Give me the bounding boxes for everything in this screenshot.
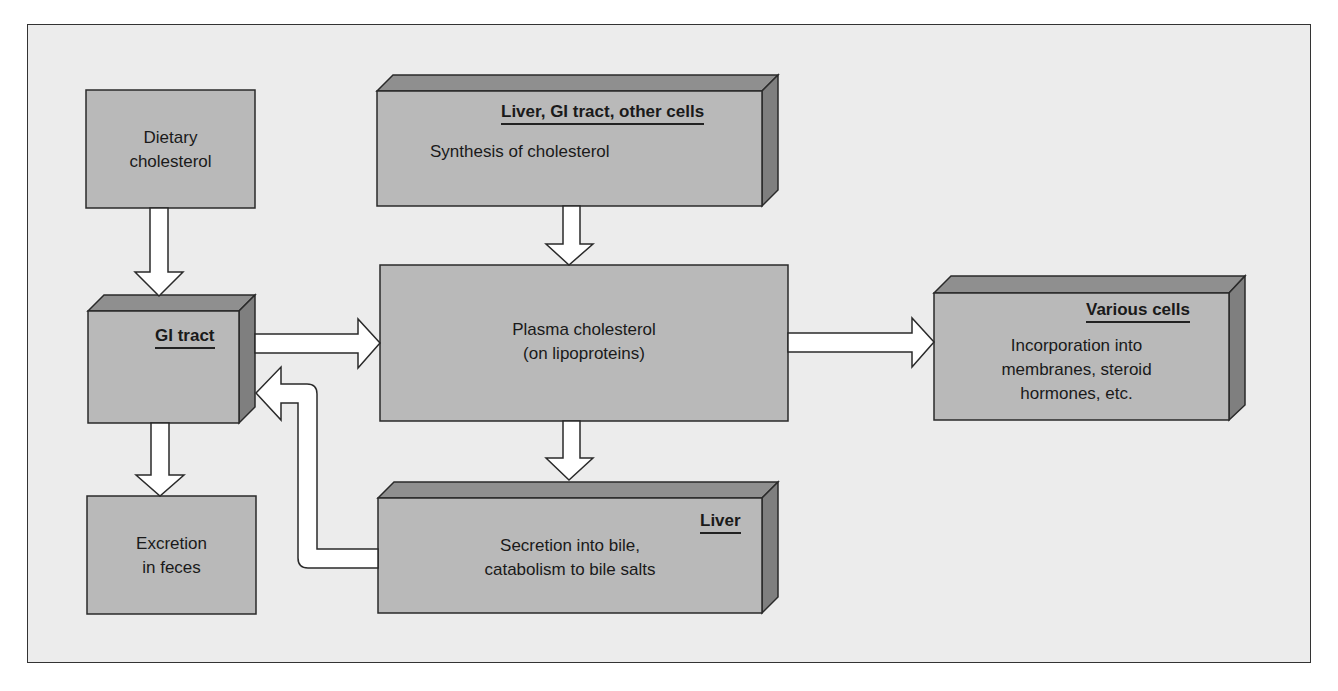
arrow-liver-to-gi (256, 367, 378, 568)
various-line-1: Incorporation into (934, 334, 1219, 358)
plasma-cholesterol-label: Plasma cholesterol (on lipoproteins) (380, 318, 788, 366)
liver-label: Secretion into bile, catabolism to bile … (378, 534, 762, 582)
gi-tract-location-heading: GI tract (155, 326, 215, 349)
synthesis-location-heading: Liver, GI tract, other cells (501, 102, 704, 125)
plasma-line-2: (on lipoproteins) (380, 342, 788, 366)
synthesis-label: Synthesis of cholesterol (430, 140, 690, 164)
various-cells-label: Incorporation into membranes, steroid ho… (934, 334, 1219, 406)
various-line-3: hormones, etc. (934, 382, 1219, 406)
liver-line-2: catabolism to bile salts (378, 558, 762, 582)
various-cells-location-heading: Various cells (1086, 300, 1190, 323)
arrow-gi-to-excretion (136, 423, 184, 496)
gi-tract-box (88, 295, 255, 423)
various-line-2: membranes, steroid (934, 358, 1219, 382)
excretion-label: Excretion in feces (87, 532, 256, 580)
synthesis-line-1: Synthesis of cholesterol (430, 140, 690, 164)
arrow-dietary-to-gi (135, 208, 183, 296)
dietary-cholesterol-label: Dietary cholesterol (86, 126, 255, 174)
liver-location-heading: Liver (700, 511, 741, 534)
dietary-line-2: cholesterol (86, 150, 255, 174)
arrow-plasma-to-various (788, 318, 934, 367)
excretion-line-2: in feces (87, 556, 256, 580)
plasma-line-1: Plasma cholesterol (380, 318, 788, 342)
arrow-gi-to-plasma (255, 319, 380, 368)
excretion-line-1: Excretion (87, 532, 256, 556)
arrow-plasma-to-liver (546, 421, 593, 480)
dietary-line-1: Dietary (86, 126, 255, 150)
liver-line-1: Secretion into bile, (378, 534, 762, 558)
arrow-synthesis-to-plasma (546, 206, 593, 265)
